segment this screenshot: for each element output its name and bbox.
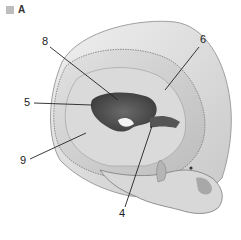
label-6: 6 xyxy=(200,34,206,45)
leader-line-5 xyxy=(34,103,92,105)
label-8: 8 xyxy=(42,36,48,47)
leader-line-4 xyxy=(125,126,152,207)
label-9: 9 xyxy=(20,155,26,166)
leader-line-6 xyxy=(165,47,199,90)
label-5: 5 xyxy=(24,97,30,108)
leader-line-9 xyxy=(30,133,86,159)
label-4: 4 xyxy=(119,208,125,219)
leader-line-8 xyxy=(50,47,118,100)
